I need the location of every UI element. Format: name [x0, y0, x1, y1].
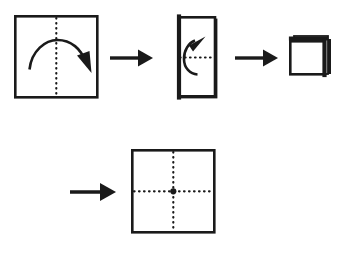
arrow-2-head	[263, 50, 278, 67]
diagram-canvas	[0, 0, 352, 256]
arrow-2	[235, 50, 278, 67]
arrow-1-head	[138, 50, 153, 67]
arrow-3-head	[100, 183, 116, 201]
paper-folding-diagram: Paper Folding Sequence Unfolded square s…	[0, 0, 352, 256]
step-4-punched-hole	[170, 188, 176, 194]
step-4-group	[132, 150, 214, 232]
step-3-group	[290, 36, 330, 75]
arrow-3	[70, 183, 116, 201]
step-3-square	[290, 41, 324, 74]
step-2-group	[179, 17, 217, 98]
arrow-1	[110, 50, 153, 67]
step-1-group	[15, 16, 97, 97]
